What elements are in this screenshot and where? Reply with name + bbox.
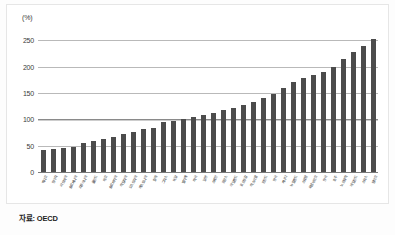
x-axis-tick-label: 노르웨이 — [340, 175, 349, 187]
bars-group — [38, 35, 378, 172]
bar — [71, 147, 76, 172]
bar — [291, 82, 296, 172]
x-axis-tick-label: 라트비아 — [60, 175, 69, 187]
bar — [191, 117, 196, 172]
x-axis-tick-label: 덴마크 — [371, 175, 379, 185]
bar — [341, 59, 346, 172]
bar — [211, 113, 216, 172]
x-axis-tick-label: 벨기에 — [181, 175, 189, 185]
bar — [321, 72, 326, 172]
y-axis-tick-label: 250 — [23, 37, 34, 44]
source-note: 자료: OECD — [19, 212, 58, 223]
bar — [51, 149, 56, 172]
y-axis-unit-label: (%) — [22, 14, 32, 21]
x-axis-tick-label: 독일 — [172, 175, 178, 182]
plot-area: 050100150200250 — [38, 35, 378, 172]
x-axis-tick-label: 호주 — [332, 175, 338, 182]
bar — [201, 115, 206, 172]
bar — [251, 102, 256, 172]
bar — [231, 108, 236, 172]
x-axis-tick-label: 룩셈부르크 — [308, 175, 318, 190]
bar — [221, 110, 226, 172]
bar — [131, 132, 136, 172]
x-axis-tick-label: 스위스 — [361, 175, 369, 185]
x-axis-tick-label: 리투아니아 — [78, 175, 88, 190]
bar — [311, 75, 316, 172]
bar — [241, 105, 246, 172]
bar — [61, 148, 66, 172]
x-axis-tick-label: 프랑스 — [221, 175, 229, 185]
x-axis-tick-label: 뉴질랜드 — [290, 175, 299, 187]
y-axis-tick-label: 200 — [23, 63, 34, 70]
x-axis-tick-label: 에스토니아 — [138, 175, 148, 190]
y-axis-tick-label: 0 — [30, 169, 34, 176]
y-axis-tick-label: 150 — [23, 89, 34, 96]
bar — [171, 121, 176, 172]
x-axis-tick-label: 멕시코 — [41, 175, 49, 185]
x-axis-tick-label: 네덜란드 — [350, 175, 359, 187]
x-axis-tick-label: 스페인 — [211, 175, 219, 185]
x-axis-tick-label: 이탈리아 — [120, 175, 129, 187]
bar — [371, 39, 376, 172]
bar — [101, 139, 106, 172]
bar — [41, 150, 46, 172]
x-axis-tick-label: 폴란드 — [91, 175, 99, 185]
bar — [161, 122, 166, 172]
x-axis-tick-label: 일본 — [202, 175, 208, 182]
x-axis-tick-label: 미국 — [192, 175, 198, 182]
x-axis-tick-label: 포르투갈 — [240, 175, 249, 187]
x-axis-tick-label: 슬로바키아 — [108, 175, 118, 190]
x-axis-labels: 멕시코헝가리라트비아슬로베니아리투아니아폴란드체코슬로바키아이탈리아오스트리아에… — [38, 173, 378, 207]
x-axis-tick-label: 영국 — [272, 175, 278, 182]
chart-figure: (%) 050100150200250 멕시코헝가리라트비아슬로베니아리투아니아… — [0, 0, 395, 235]
x-axis-tick-label: 그리스 — [161, 175, 169, 185]
x-axis-tick-label: 아일랜드 — [230, 175, 239, 187]
bar — [331, 67, 336, 172]
bar — [281, 88, 286, 172]
bar — [271, 94, 276, 172]
bar — [351, 52, 356, 172]
x-axis-tick-label: 체코 — [102, 175, 108, 182]
bar — [361, 46, 366, 172]
x-axis-tick-label: 스웨덴 — [301, 175, 309, 185]
bar — [261, 98, 266, 172]
bar — [81, 143, 86, 172]
x-axis-tick-label: 이스라엘 — [250, 175, 259, 187]
x-axis-tick-label: 칠레 — [152, 175, 158, 182]
bar — [181, 119, 186, 172]
bar — [141, 129, 146, 172]
x-axis-tick-label: 핀란드 — [261, 175, 269, 185]
bar — [111, 137, 116, 172]
bar — [121, 134, 126, 172]
y-axis-tick-label: 100 — [23, 116, 34, 123]
bar — [301, 78, 306, 172]
x-axis-tick-label: 헝가리 — [51, 175, 59, 185]
y-axis-tick-label: 50 — [27, 142, 34, 149]
x-axis-tick-label: 캐나다 — [281, 175, 289, 185]
bar — [91, 141, 96, 172]
bar — [151, 128, 156, 172]
x-axis-tick-label: 한국 — [322, 175, 328, 182]
